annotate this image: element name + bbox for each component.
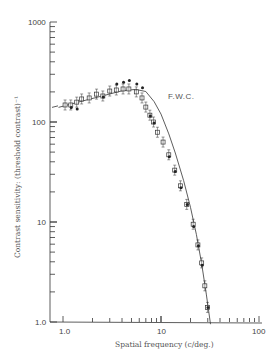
y-axis-title: Contrast sensitivity: (threshold contras…	[13, 96, 22, 258]
x-axis-ticks	[63, 316, 259, 322]
fit-curve	[59, 89, 211, 324]
data-point-filled	[206, 306, 209, 309]
x-tick-label-100: 100	[252, 327, 266, 336]
data-point-filled	[76, 107, 79, 110]
y-tick-label-10: 10	[37, 218, 46, 227]
y-tick-label-1: 1.0	[35, 318, 47, 327]
data-point-filled	[174, 170, 177, 173]
data-point-filled	[201, 264, 204, 267]
data-point-filled	[102, 95, 105, 98]
x-tick-label-1: 1.0	[59, 327, 71, 336]
data-point-filled	[128, 79, 131, 82]
data-point-filled	[197, 244, 200, 247]
data-point-filled	[153, 121, 156, 124]
chart-canvas: 1000 100 10 1.0 1.0 10 100 Spatial frequ…	[0, 0, 279, 360]
data-point-filled	[179, 186, 182, 189]
data-point-filled	[135, 82, 138, 85]
data-point-filled	[115, 82, 118, 85]
fit-curve-start	[52, 106, 58, 108]
x-axis-line	[50, 322, 262, 323]
data-point-filled	[141, 86, 144, 89]
y-tick-label-100: 100	[32, 118, 46, 127]
x-tick-label-10: 10	[157, 327, 166, 336]
y-axis-ticks	[50, 22, 57, 322]
data-point-filled	[192, 225, 195, 228]
data-point-filled	[70, 106, 73, 109]
data-point-filled	[168, 155, 171, 158]
data-point-filled	[122, 81, 125, 84]
data-point-filled	[149, 114, 152, 117]
data-point-filled	[186, 203, 189, 206]
y-tick-label-1000: 1000	[28, 18, 46, 27]
x-axis-title: Spatial frequency (c/deg.)	[115, 340, 214, 349]
subject-annotation: F.W.C.	[168, 92, 195, 101]
